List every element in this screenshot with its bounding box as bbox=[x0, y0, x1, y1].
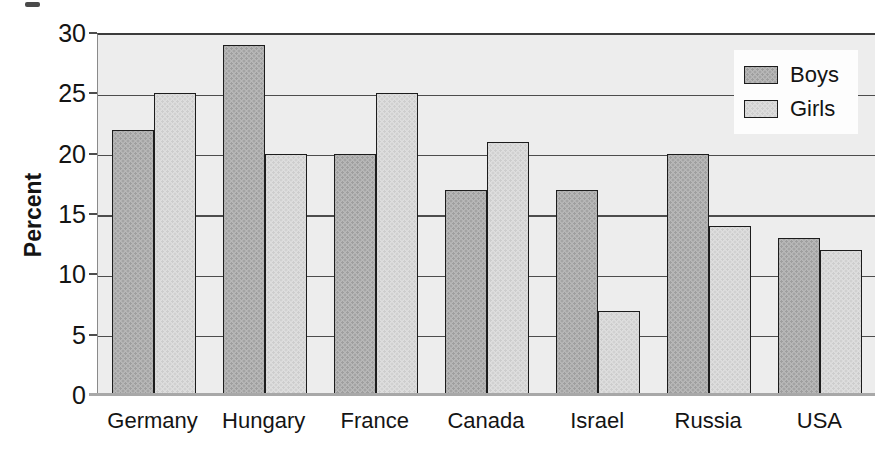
x-tick-label-canada: Canada bbox=[430, 407, 541, 435]
y-tick-label-25: 25 bbox=[8, 78, 86, 108]
y-tick-label-10: 10 bbox=[8, 259, 86, 289]
legend-item-girls: Girls bbox=[744, 97, 858, 121]
x-tick-label-russia: Russia bbox=[653, 407, 764, 435]
bar-boys-france bbox=[334, 154, 376, 395]
bar-boys-hungary bbox=[223, 45, 265, 395]
legend: BoysGirls bbox=[734, 50, 858, 134]
y-tick-label-30: 30 bbox=[8, 18, 86, 48]
legend-label-boys: Boys bbox=[790, 63, 839, 87]
bar-boys-canada bbox=[445, 190, 487, 395]
girls-swatch-icon bbox=[744, 100, 778, 118]
legend-item-boys: Boys bbox=[744, 63, 858, 87]
bar-girls-france bbox=[376, 93, 418, 395]
x-tick-label-israel: Israel bbox=[542, 407, 653, 435]
y-tick-label-20: 20 bbox=[8, 139, 86, 169]
bar-girls-russia bbox=[709, 226, 751, 395]
bar-boys-israel bbox=[556, 190, 598, 395]
bar-girls-canada bbox=[487, 142, 529, 395]
bar-chart-figure: Percent BoysGirls 051015202530GermanyHun… bbox=[0, 0, 892, 460]
bar-girls-hungary bbox=[265, 154, 307, 395]
bar-girls-israel bbox=[598, 311, 640, 396]
y-tick-mark-25 bbox=[89, 92, 97, 94]
bar-boys-usa bbox=[778, 238, 820, 395]
scan-artifact-mark bbox=[25, 2, 40, 7]
x-tick-label-germany: Germany bbox=[97, 407, 208, 435]
bar-girls-usa bbox=[820, 250, 862, 395]
y-tick-label-5: 5 bbox=[8, 320, 86, 350]
y-tick-mark-20 bbox=[89, 153, 97, 155]
bar-boys-germany bbox=[112, 130, 154, 396]
y-tick-mark-10 bbox=[89, 273, 97, 275]
x-axis-line bbox=[89, 393, 875, 396]
legend-label-girls: Girls bbox=[790, 97, 835, 121]
x-tick-label-france: France bbox=[319, 407, 430, 435]
y-tick-label-15: 15 bbox=[8, 199, 86, 229]
y-tick-label-0: 0 bbox=[8, 380, 86, 410]
y-tick-mark-5 bbox=[89, 334, 97, 336]
bar-girls-germany bbox=[154, 93, 196, 395]
bar-boys-russia bbox=[667, 154, 709, 395]
boys-swatch-icon bbox=[744, 66, 778, 84]
plot-area: BoysGirls bbox=[97, 33, 875, 395]
x-tick-label-usa: USA bbox=[764, 407, 875, 435]
y-tick-mark-30 bbox=[89, 32, 97, 34]
y-tick-mark-15 bbox=[89, 213, 97, 215]
x-tick-label-hungary: Hungary bbox=[208, 407, 319, 435]
